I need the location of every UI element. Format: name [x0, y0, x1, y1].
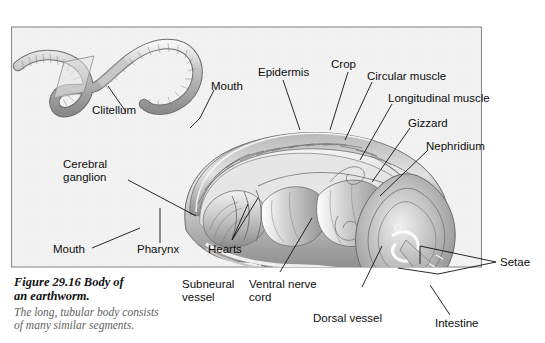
- label-nephridium: Nephridium: [426, 140, 485, 153]
- label-intestine: Intestine: [435, 317, 478, 330]
- label-cerebral-ganglion: Cerebral ganglion: [63, 158, 107, 183]
- label-pharynx: Pharynx: [137, 243, 179, 256]
- label-longitudinal-muscle: Longitudinal muscle: [388, 92, 490, 105]
- label-gizzard: Gizzard: [408, 117, 448, 130]
- label-hearts: Hearts: [208, 243, 242, 256]
- label-mouth-top: Mouth: [211, 80, 243, 93]
- label-mouth-bottom: Mouth: [53, 243, 85, 256]
- figure-caption-heading: Figure 29.16 Body of an earthworm.: [14, 276, 124, 303]
- label-crop: Crop: [331, 58, 356, 71]
- leader-intestine: [430, 285, 450, 315]
- label-circular-muscle: Circular muscle: [367, 70, 446, 83]
- label-epidermis: Epidermis: [258, 66, 309, 79]
- label-subneural-vessel: Subneural vessel: [182, 278, 234, 303]
- label-clitellum: Clitellum: [92, 104, 136, 117]
- label-dorsal-vessel: Dorsal vessel: [313, 312, 382, 325]
- figure-caption-body: The long, tubular body consists of many …: [14, 306, 159, 332]
- label-setae: Setae: [500, 256, 530, 269]
- label-ventral-nerve-cord: Ventral nerve cord: [249, 278, 317, 303]
